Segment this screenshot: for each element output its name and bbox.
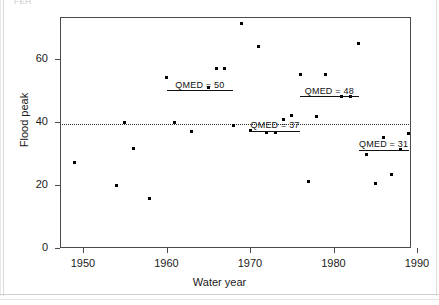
corner-note: FEH — [14, 0, 32, 6]
x-tick-mark — [83, 248, 84, 253]
data-point — [315, 115, 318, 118]
x-tick-mark — [334, 248, 335, 253]
x-tick-label: 1980 — [314, 257, 354, 269]
data-point — [240, 22, 243, 25]
data-point — [299, 73, 302, 76]
data-point — [73, 161, 76, 164]
data-point — [290, 114, 293, 117]
data-point — [132, 147, 135, 150]
y-tick-mark — [55, 248, 60, 249]
data-point — [407, 132, 410, 135]
page-edge-artifact — [436, 0, 437, 296]
data-point — [223, 67, 226, 70]
x-axis-title: Water year — [0, 276, 439, 288]
x-tick-mark — [167, 248, 168, 253]
qmed-50-label: QMED = 50 — [175, 80, 224, 90]
x-tick-label: 1960 — [147, 257, 187, 269]
y-axis-title: Flood peak — [18, 60, 30, 180]
data-point — [232, 124, 235, 127]
page-edge-artifact — [0, 299, 439, 300]
x-tick-label: 1990 — [397, 257, 437, 269]
data-point — [165, 76, 168, 79]
plot-area: QMED = 50QMED = 48QMED = 37QMED = 31 — [60, 17, 411, 248]
data-point — [390, 173, 393, 176]
x-tick-mark — [250, 248, 251, 253]
qmed-48-label: QMED = 48 — [305, 86, 354, 96]
data-point — [190, 130, 193, 133]
data-point — [173, 121, 176, 124]
qmed-37-label: QMED = 37 — [251, 120, 300, 130]
flood-peak-scatter-figure: FEH 0204060 19501960197019801990 QMED = … — [0, 0, 439, 305]
qmed-31-label: QMED = 31 — [359, 139, 408, 149]
qmed-50-segment — [167, 90, 234, 91]
x-tick-label: 1950 — [63, 257, 103, 269]
data-point — [215, 67, 218, 70]
reference-line — [60, 124, 411, 125]
qmed-31-segment — [359, 150, 409, 151]
data-point — [257, 45, 260, 48]
page-edge-artifact — [0, 0, 1, 296]
page-edge-artifact — [3, 0, 4, 296]
data-point — [307, 180, 310, 183]
x-tick-mark — [417, 248, 418, 253]
data-point — [115, 184, 118, 187]
page-edge-artifact — [0, 294, 439, 295]
y-tick-label: 0 — [22, 241, 48, 253]
data-point — [123, 121, 126, 124]
x-tick-label: 1970 — [230, 257, 270, 269]
data-point — [374, 182, 377, 185]
qmed-48-segment — [300, 96, 358, 97]
qmed-37-segment — [250, 131, 300, 132]
data-point — [324, 73, 327, 76]
data-point — [365, 153, 368, 156]
data-point — [148, 197, 151, 200]
data-point — [357, 42, 360, 45]
